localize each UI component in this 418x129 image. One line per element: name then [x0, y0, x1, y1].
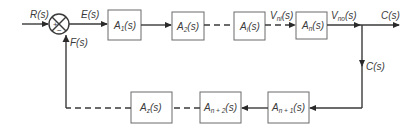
block-a2: A2(s): [172, 12, 204, 40]
svg-text:A1(s): A1(s): [113, 20, 136, 32]
label-feedback: F(s): [70, 37, 88, 48]
minus-sign: −: [57, 26, 62, 35]
block-diagram: R(s) + − E(s) A1(s) A2(s) Ai(s) Vni(s) A…: [0, 0, 418, 129]
block-az: Az(s): [131, 92, 172, 123]
label-vni: Vni(s): [270, 10, 293, 22]
summing-junction: + −: [49, 14, 69, 35]
label-output: C(s): [381, 10, 400, 21]
block-a1: A1(s): [108, 10, 141, 40]
svg-text:An(s): An(s): [301, 20, 324, 32]
label-input: R(s): [30, 9, 49, 20]
svg-text:A2(s): A2(s): [176, 21, 199, 33]
block-an: An(s): [296, 12, 327, 39]
block-an-plus-2: An + 2(s): [200, 92, 241, 123]
label-error: E(s): [81, 9, 99, 20]
block-an-plus-1: An + 1(s): [268, 92, 309, 123]
block-ai: Ai(s): [234, 12, 265, 40]
label-output-branch: C(s): [366, 61, 385, 72]
svg-text:Ai(s): Ai(s): [239, 21, 260, 33]
feedback-arrow: [63, 35, 70, 42]
svg-text:Az(s): Az(s): [139, 102, 162, 114]
label-vno: Vno(s): [331, 10, 357, 22]
